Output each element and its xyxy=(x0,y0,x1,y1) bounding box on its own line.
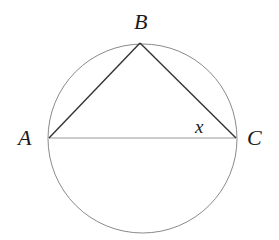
label-a: A xyxy=(16,125,32,150)
segment-bc xyxy=(140,43,236,138)
angle-label-x: x xyxy=(194,116,204,137)
label-c: C xyxy=(247,125,262,150)
label-b: B xyxy=(134,9,147,34)
geometry-diagram: B A C x xyxy=(0,0,279,240)
